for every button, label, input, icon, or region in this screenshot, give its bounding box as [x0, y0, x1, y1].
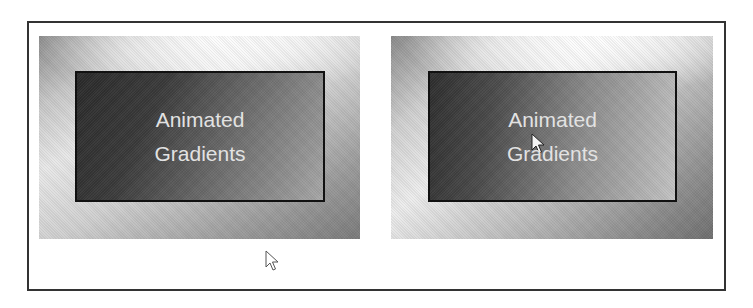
box-title-line-2: Gradients: [507, 137, 598, 171]
box-title-line-1: Animated: [508, 103, 597, 137]
gradient-panel-1[interactable]: Animated Gradients: [39, 36, 360, 239]
animated-gradient-box-2[interactable]: Animated Gradients: [428, 71, 677, 202]
box-title-line-2: Gradients: [154, 137, 245, 171]
screenshot-stage: Animated Gradients Animated Gradients: [0, 0, 753, 308]
gradient-panel-2[interactable]: Animated Gradients: [391, 36, 713, 239]
animated-gradient-box-1[interactable]: Animated Gradients: [75, 71, 325, 202]
pointer-outline-icon: [265, 250, 279, 272]
box-title-line-1: Animated: [156, 103, 245, 137]
